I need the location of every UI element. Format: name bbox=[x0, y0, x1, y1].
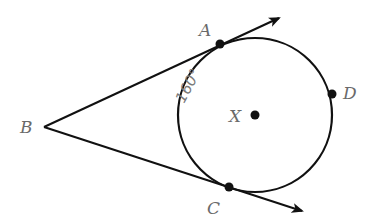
label-d: D bbox=[342, 83, 357, 103]
center-x-dot bbox=[251, 111, 260, 120]
point-c-dot bbox=[225, 183, 234, 192]
arc-measure-annotation: 160° bbox=[172, 66, 205, 106]
point-a-dot bbox=[216, 40, 225, 49]
tangent-ray-ba bbox=[44, 18, 279, 127]
label-b: B bbox=[19, 117, 33, 137]
point-d-dot bbox=[328, 90, 337, 99]
tangent-ray-bc bbox=[44, 127, 302, 211]
label-a: A bbox=[197, 20, 211, 40]
label-c: C bbox=[207, 198, 220, 218]
label-x: X bbox=[227, 106, 242, 126]
tangent-circle-diagram: A B C D X 160° bbox=[0, 0, 370, 221]
